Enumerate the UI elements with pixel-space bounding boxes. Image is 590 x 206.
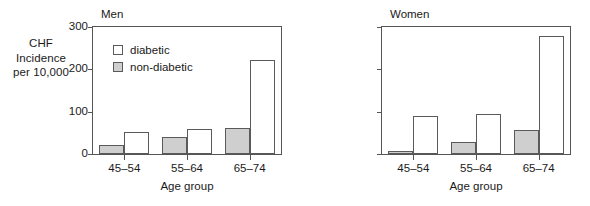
x-axis-tick-label-45-54: 45–54 [108, 162, 140, 174]
bar-diabetic-55-64 [187, 129, 212, 154]
panel-men-title: Men [101, 8, 123, 20]
y-axis-tick-labels: 0100200300 [58, 0, 88, 206]
x-axis-tick-label-65-74: 65–74 [234, 162, 266, 174]
legend-swatch-non-diabetic-icon [113, 62, 123, 72]
bar-diabetic-45-54 [413, 116, 438, 154]
legend-item-non-diabetic: non-diabetic [113, 58, 193, 75]
panel-women: Women Age group 45–5455–6465–74 [381, 26, 571, 155]
y-axis-tick-mark-0 [88, 154, 93, 155]
x-axis-tick-mark-45-54 [413, 155, 414, 160]
y-axis-tick-label-200: 200 [58, 64, 88, 76]
y-axis-tick-mark-200 [88, 69, 93, 70]
legend-item-diabetic: diabetic [113, 41, 193, 58]
bar-non-diabetic-45-54 [99, 145, 124, 154]
bar-non-diabetic-65-74 [514, 130, 539, 154]
bar-diabetic-65-74 [539, 36, 564, 154]
bar-group-65-74 [514, 27, 564, 154]
x-axis-tick-label-45-54: 45–54 [397, 162, 429, 174]
y-axis-tick-mark-300 [88, 27, 93, 28]
x-axis-tick-label-55-64: 55–64 [171, 162, 203, 174]
x-axis-tick-mark-45-54 [124, 155, 125, 160]
x-axis-tick-mark-55-64 [187, 155, 188, 160]
y-axis-tick-mark-0 [377, 154, 382, 155]
legend-swatch-diabetic-icon [113, 45, 123, 55]
legend: diabetic non-diabetic [113, 41, 193, 75]
bar-non-diabetic-55-64 [162, 137, 187, 154]
panel-women-x-axis-title: Age group [381, 180, 571, 192]
bar-non-diabetic-45-54 [388, 151, 413, 154]
y-axis-tick-mark-100 [377, 112, 382, 113]
bar-non-diabetic-55-64 [451, 142, 476, 154]
bar-diabetic-45-54 [124, 132, 149, 154]
y-axis-tick-mark-200 [377, 69, 382, 70]
y-axis-tick-label-100: 100 [58, 106, 88, 118]
y-axis-tick-label-300: 300 [58, 21, 88, 33]
legend-label-non-diabetic: non-diabetic [130, 61, 193, 73]
y-axis-tick-mark-300 [377, 27, 382, 28]
x-axis-tick-label-65-74: 65–74 [523, 162, 555, 174]
bar-diabetic-65-74 [250, 60, 275, 154]
panel-women-title: Women [390, 8, 429, 20]
bar-group-55-64 [451, 27, 501, 154]
bar-group-45-54 [388, 27, 438, 154]
panel-men-x-axis-title: Age group [92, 180, 282, 192]
bar-group-65-74 [225, 27, 275, 154]
bar-non-diabetic-65-74 [225, 128, 250, 154]
y-axis-tick-mark-100 [88, 112, 93, 113]
y-axis-tick-label-0: 0 [58, 148, 88, 160]
x-axis-tick-label-55-64: 55–64 [460, 162, 492, 174]
bar-diabetic-55-64 [476, 114, 501, 154]
x-axis-tick-mark-65-74 [250, 155, 251, 160]
chf-incidence-chart: CHF Incidence per 10,000 0100200300 Men … [0, 0, 590, 206]
x-axis-tick-mark-65-74 [539, 155, 540, 160]
x-axis-tick-mark-55-64 [476, 155, 477, 160]
panel-women-bars [382, 27, 570, 154]
legend-label-diabetic: diabetic [130, 44, 170, 56]
